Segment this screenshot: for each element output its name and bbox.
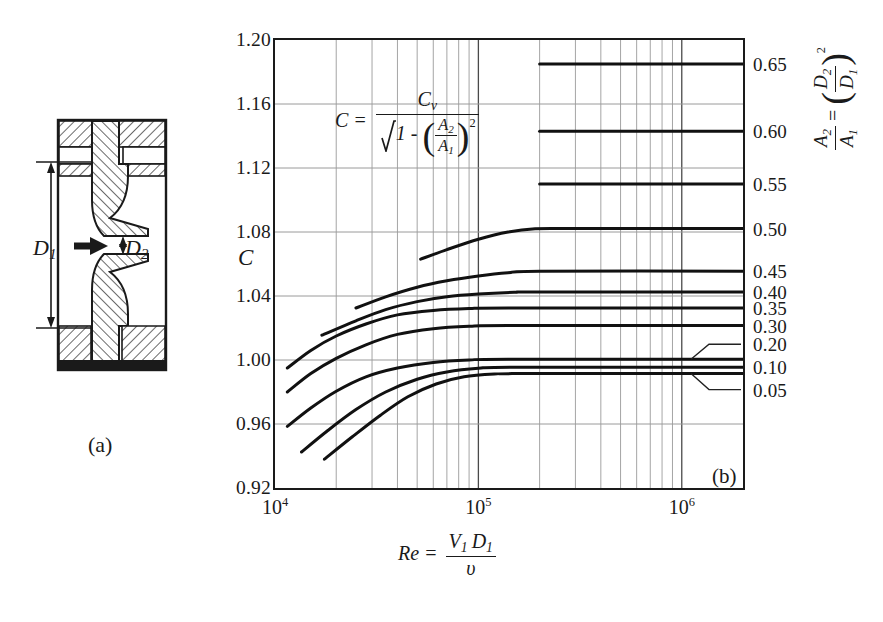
x-axis-denominator: υ	[446, 556, 496, 580]
y-tick-0.96: 0.96	[236, 414, 271, 434]
y-tick-0.92: 0.92	[236, 478, 271, 498]
right-paren-open: (	[818, 92, 852, 105]
series-label-0.20: 0.20	[753, 335, 787, 354]
x-tick-1e4: 104	[262, 496, 288, 517]
y-tick-1.00: 1.00	[236, 350, 271, 370]
right-caption-exponent: 2	[814, 47, 828, 53]
plot-area: (b) C = Cv 1 - ( A2 A1	[273, 38, 745, 490]
y-axis-tick-labels: 1.201.161.121.081.041.000.960.92	[213, 40, 271, 492]
x-axis-numerator: V1 D1	[446, 530, 496, 556]
x-axis-title: Re = V1 D1 υ	[398, 530, 496, 580]
curve-0.10	[302, 367, 743, 452]
figure-root: D1 D2 (a) C (b) C = Cv	[0, 0, 883, 622]
right-caption-den: A1	[835, 126, 861, 150]
x-tick-1e6: 106	[669, 496, 695, 517]
panel-a-nozzle-diagram: D1 D2 (a)	[0, 0, 230, 622]
curve-0.05	[324, 374, 743, 460]
panel-a-caption: (a)	[88, 432, 112, 458]
right-diam-num: D2	[810, 66, 835, 92]
paren-open: (	[423, 119, 436, 153]
formula-root-lead: 1 -	[396, 123, 418, 145]
y-tick-1.04: 1.04	[236, 286, 271, 306]
area-ratio-denominator: A1	[435, 135, 457, 156]
x-tick-1e5: 105	[465, 496, 491, 517]
area-ratio-numerator: A2	[435, 115, 457, 135]
curve-0.20	[287, 359, 743, 426]
series-label-0.55: 0.55	[753, 175, 787, 194]
series-label-0.50: 0.50	[753, 219, 787, 238]
d2-dimension-label: D2	[125, 235, 148, 263]
series-label-0.30: 0.30	[753, 316, 787, 335]
series-label-0.60: 0.60	[753, 122, 787, 141]
radical-icon	[381, 118, 396, 152]
leader-line-0.05	[691, 374, 741, 390]
right-diam-den: D1	[835, 66, 861, 92]
coefficient-formula: C = Cv 1 - ( A2 A1 )2	[335, 88, 479, 157]
series-label-0.10: 0.10	[753, 358, 787, 377]
y-tick-1.08: 1.08	[236, 222, 271, 242]
paren-close: )	[457, 119, 470, 153]
formula-denominator: 1 - ( A2 A1 )2	[376, 114, 479, 157]
series-label-0.65: 0.65	[753, 55, 787, 74]
y-tick-1.16: 1.16	[236, 94, 271, 114]
series-label-0.45: 0.45	[753, 262, 787, 281]
right-paren-close: )	[818, 53, 852, 66]
y-tick-1.20: 1.20	[236, 30, 271, 50]
right-axis-title: A2 A1 = ( D2 D1 )2	[810, 47, 861, 150]
y-tick-1.12: 1.12	[236, 158, 271, 178]
formula-exponent: 2	[469, 116, 475, 130]
leader-line-0.20	[691, 344, 741, 359]
right-caption-equals: =	[822, 110, 844, 121]
right-caption-num: A2	[810, 126, 835, 150]
x-axis-lhs: Re =	[398, 542, 438, 564]
panel-b-chart: C (b) C = Cv	[230, 0, 883, 622]
panel-b-caption: (b)	[712, 464, 737, 489]
d1-dimension-label: D1	[33, 235, 56, 263]
series-label-0.05: 0.05	[753, 380, 787, 399]
formula-lhs: C =	[335, 109, 367, 131]
x-axis-tick-labels: 104105106	[275, 496, 747, 536]
formula-numerator: Cv	[376, 88, 479, 114]
